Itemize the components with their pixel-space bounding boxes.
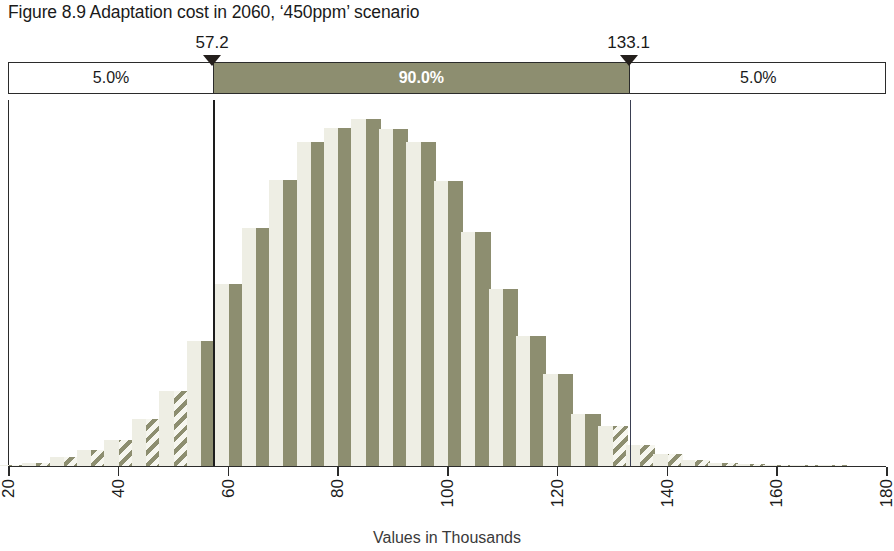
x-axis-tick: [118, 467, 120, 476]
x-axis-tick-label: 160: [767, 479, 787, 507]
x-axis-tick: [776, 467, 778, 476]
upper-bound-label: 133.1: [607, 33, 650, 53]
x-axis-tick-label: 120: [548, 479, 568, 507]
x-axis-title: Values in Thousands: [8, 529, 886, 547]
x-axis-tick: [228, 467, 230, 476]
lower-bound-marker-icon: [203, 55, 221, 66]
histogram-plot-area: [8, 100, 886, 467]
x-axis-tick-label: 60: [219, 479, 239, 498]
x-axis-tick: [667, 467, 669, 476]
upper-bound-marker-icon: [620, 55, 638, 66]
band-central-label: 90.0%: [213, 63, 630, 93]
x-axis-tick-label: 40: [109, 479, 129, 498]
band-left-tail-label: 5.0%: [9, 63, 213, 93]
x-axis-tick: [557, 467, 559, 476]
x-axis-tick-label: 80: [328, 479, 348, 498]
x-axis-tick-label: 100: [438, 479, 458, 507]
band-right-tail-label: 5.0%: [630, 63, 887, 93]
x-axis-tick: [447, 467, 449, 476]
histogram-bar: [832, 465, 847, 467]
x-axis: Values in Thousands 20406080100120140160…: [8, 467, 886, 551]
confidence-band: 5.0% 90.0% 5.0%: [8, 62, 886, 94]
page-title: Figure 8.9 Adaptation cost in 2060, ‘450…: [8, 2, 419, 23]
lower-bound-label: 57.2: [196, 33, 229, 53]
x-axis-tick: [886, 467, 888, 476]
histogram-bars: [9, 100, 886, 466]
x-axis-tick-label: 180: [877, 479, 894, 507]
x-axis-tick: [8, 467, 10, 476]
x-axis-tick-label: 140: [658, 479, 678, 507]
x-axis-tick: [337, 467, 339, 476]
lower-bound-reference-line: [213, 100, 215, 466]
x-axis-tick-label: 20: [0, 479, 19, 498]
upper-bound-reference-line: [630, 100, 631, 466]
